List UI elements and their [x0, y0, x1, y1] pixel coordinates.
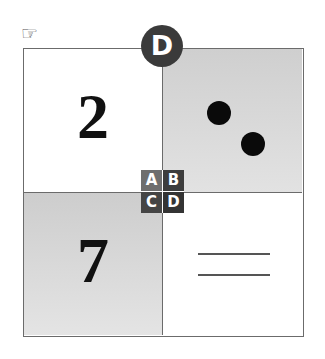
quadrant-c[interactable]: 7 — [24, 193, 163, 335]
key-d: D — [163, 192, 184, 213]
digit-two: 2 — [24, 85, 162, 149]
line-2 — [198, 274, 270, 276]
key-b: B — [163, 170, 184, 191]
digit-seven: 7 — [24, 229, 162, 293]
dot-2 — [241, 132, 265, 156]
dot-1 — [207, 101, 231, 125]
quadrant-d[interactable] — [163, 193, 302, 335]
answer-badge: D — [141, 25, 183, 67]
key-a: A — [141, 170, 162, 191]
pointing-hand-icon: ☞ — [21, 24, 38, 43]
key-c: C — [141, 192, 162, 213]
quadrant-key: A B C D — [141, 170, 184, 213]
line-1 — [198, 253, 270, 255]
